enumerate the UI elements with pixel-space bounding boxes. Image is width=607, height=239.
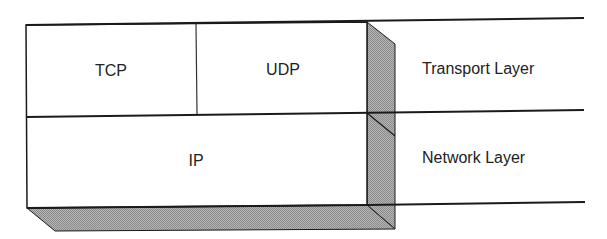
- tcp-label: TCP: [95, 63, 127, 79]
- box-side-face: [367, 22, 395, 229]
- protocol-stack-diagram: [0, 0, 607, 239]
- bottom-boundary-line: [367, 202, 585, 205]
- network-layer-label: Network Layer: [422, 150, 525, 166]
- box-bottom-face: [27, 205, 395, 231]
- udp-label: UDP: [266, 62, 300, 78]
- ip-label: IP: [188, 153, 203, 169]
- transport-layer-label: Transport Layer: [422, 61, 534, 77]
